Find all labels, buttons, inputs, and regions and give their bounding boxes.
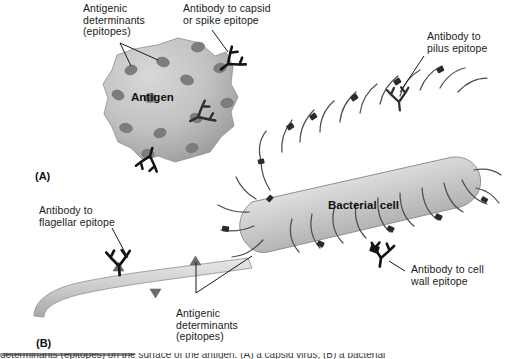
caption-strip: determinants (epitopes) on the surface o… (0, 353, 518, 359)
inline-label-antigen: Antigen (131, 91, 174, 103)
antibody-on-pilus (387, 87, 411, 112)
label-antibody-capsid: Antibody to capsid or spike epitope (183, 3, 271, 26)
label-antibody-cell-wall: Antibody to cell wall epitope (411, 264, 484, 287)
label-antibody-pilus: Antibody to pilus epitope (427, 31, 487, 54)
label-antibody-flagellar: Antibody to flagellar epitope (39, 205, 115, 228)
caption-text: determinants (epitopes) on the surface o… (0, 353, 518, 359)
label-antigenic-determinants-top: Antigenic determinants (epitopes) (83, 3, 145, 38)
panel-tag-b: (B) (36, 337, 51, 349)
pili-back (259, 66, 487, 163)
leader-line-cell-wall-antibody (389, 261, 405, 271)
antigen-group (103, 30, 247, 173)
flagellar-epitope-down-mid (150, 289, 161, 298)
label-antigenic-determinants-bottom: Antigenic determinants (epitopes) (176, 308, 238, 343)
leader-line-capsid-antibody (212, 30, 228, 52)
panel-tag-a: (A) (35, 170, 50, 182)
leader-line-flagellar-antibody (112, 228, 128, 258)
figure-canvas: Antigenic determinants (epitopes) Antibo… (0, 0, 518, 359)
leader-line-pilus-antibody (400, 56, 424, 92)
inline-label-bacterial-cell: Bacterial cell (328, 199, 399, 211)
